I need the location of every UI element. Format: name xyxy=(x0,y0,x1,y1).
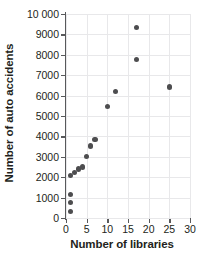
data-point xyxy=(167,84,172,89)
data-point xyxy=(92,137,97,142)
gridline-vertical xyxy=(169,14,170,218)
plot-area xyxy=(66,14,190,218)
y-tick-mark xyxy=(61,116,65,117)
gridline-vertical xyxy=(128,14,129,218)
y-tick-label: 2000 xyxy=(17,172,59,182)
y-tick-mark xyxy=(61,96,65,97)
y-axis-title: Number of auto accidents xyxy=(1,8,17,218)
data-point xyxy=(84,154,89,159)
data-point xyxy=(105,104,110,109)
y-tick-label: 7000 xyxy=(17,70,59,80)
gridline-vertical xyxy=(190,14,191,218)
y-tick-label: 1000 xyxy=(17,193,59,203)
y-tick-label: 8000 xyxy=(17,50,59,60)
data-point xyxy=(113,89,118,94)
y-tick-label: 4000 xyxy=(17,131,59,141)
y-tick-mark xyxy=(61,55,65,56)
data-point xyxy=(68,192,73,197)
y-tick-mark xyxy=(61,14,65,15)
y-tick-mark xyxy=(61,218,65,219)
y-tick-label: 6000 xyxy=(17,91,59,101)
data-point xyxy=(134,57,139,62)
x-axis-title: Number of libraries xyxy=(46,238,198,250)
y-tick-mark xyxy=(61,34,65,35)
gridline-vertical xyxy=(66,14,67,218)
y-tick-mark xyxy=(61,198,65,199)
y-tick-mark xyxy=(61,136,65,137)
y-tick-label: 3000 xyxy=(17,152,59,162)
y-tick-mark xyxy=(61,75,65,76)
gridline-vertical xyxy=(107,14,108,218)
gridline-vertical xyxy=(149,14,150,218)
data-point xyxy=(68,209,73,214)
data-point xyxy=(68,200,73,205)
gridline-vertical xyxy=(87,14,88,218)
y-tick-label: 0 xyxy=(17,213,59,223)
data-point xyxy=(80,164,85,169)
y-tick-label: 9000 xyxy=(17,29,59,39)
y-tick-label: 5000 xyxy=(17,111,59,121)
y-tick-label: 10 000 xyxy=(17,9,59,19)
y-tick-mark xyxy=(61,157,65,158)
data-point xyxy=(88,143,93,148)
data-point xyxy=(134,25,139,30)
x-tick-label: 30 xyxy=(178,224,198,235)
scatter-chart: Number of auto accidents Number of libra… xyxy=(0,0,198,258)
y-tick-mark xyxy=(61,177,65,178)
